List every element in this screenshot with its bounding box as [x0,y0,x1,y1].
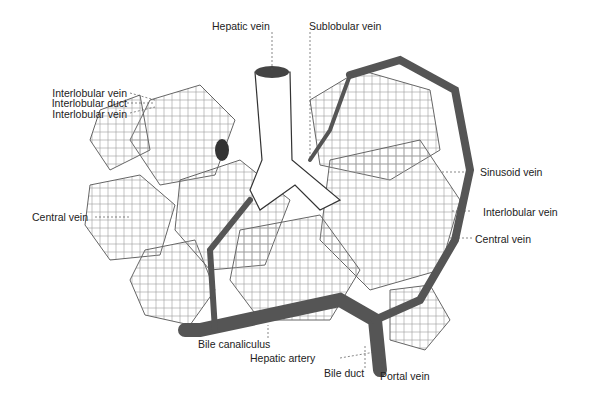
label-bile-canaliculus: Bile canaliculus [198,338,270,350]
hepatic-vein-opening [255,66,289,78]
label-hepatic-vein: Hepatic vein [212,20,270,32]
label-sinusoid-vein: Sinusoid vein [480,166,542,178]
label-portal-vein: Portal vein [380,370,430,382]
label-central-vein-right: Central vein [475,233,531,245]
label-sublobular-vein: Sublobular vein [309,20,381,32]
liver-lobule-diagram: Hepatic vein Sublobular vein Interlobula… [0,0,591,399]
label-hepatic-artery: Hepatic artery [250,352,315,364]
lobule-illustration [0,0,591,399]
vessel-opening [215,139,229,161]
label-interlobular-vein-mid: Interlobular vein [20,108,127,120]
label-interlobular-vein-right: Interlobular vein [483,206,558,218]
label-bile-duct: Bile duct [324,367,364,379]
label-central-vein-left: Central vein [32,211,88,223]
